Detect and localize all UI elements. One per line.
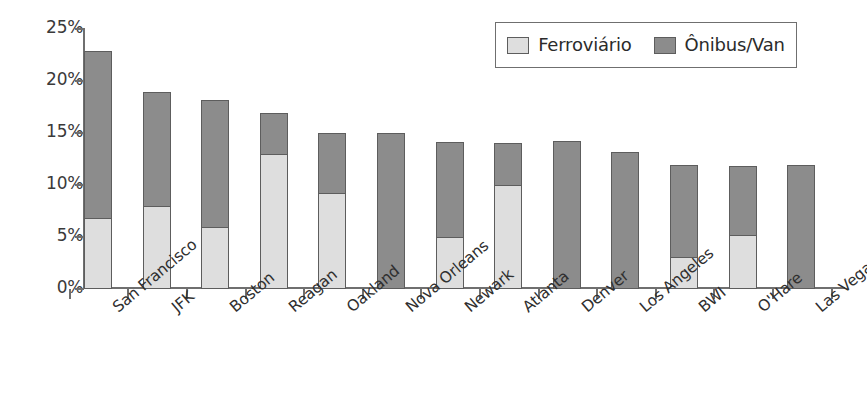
bar-segment-onibus-van[interactable] — [436, 142, 464, 238]
bar-segment-onibus-van[interactable] — [611, 152, 639, 289]
bar-group[interactable] — [84, 51, 112, 288]
bar-segment-onibus-van[interactable] — [84, 51, 112, 219]
bar-segment-onibus-van[interactable] — [260, 113, 288, 155]
bar-segment-ferroviario[interactable] — [201, 227, 229, 289]
bar-segment-onibus-van[interactable] — [143, 92, 171, 206]
bar-segment-ferroviario[interactable] — [84, 218, 112, 289]
bar-segment-onibus-van[interactable] — [670, 165, 698, 258]
bar-group[interactable] — [611, 152, 639, 288]
bar-group[interactable] — [553, 141, 581, 288]
bar-segment-onibus-van[interactable] — [494, 143, 522, 186]
bar-segment-onibus-van[interactable] — [318, 133, 346, 194]
legend-swatch-icon — [507, 37, 529, 54]
bar-group[interactable] — [260, 113, 288, 288]
bar-segment-ferroviario[interactable] — [729, 235, 757, 289]
bar-segment-onibus-van[interactable] — [201, 100, 229, 228]
stacked-bar-chart: 25%20%15%10%5%0% San FranciscoJFKBostonR… — [0, 0, 867, 419]
bar-group[interactable] — [494, 143, 522, 288]
legend-entry[interactable]: Ônibus/Van — [654, 36, 785, 54]
bar-segment-onibus-van[interactable] — [553, 141, 581, 289]
legend-swatch-icon — [654, 37, 676, 54]
bar-group[interactable] — [729, 166, 757, 288]
bar-segment-onibus-van[interactable] — [729, 166, 757, 236]
legend-label: Ferroviário — [538, 36, 631, 54]
bar-group[interactable] — [201, 100, 229, 288]
bar-segment-ferroviario[interactable] — [260, 154, 288, 289]
bar-group[interactable] — [318, 133, 346, 288]
legend-label: Ônibus/Van — [685, 36, 785, 54]
chart-legend: FerroviárioÔnibus/Van — [495, 22, 797, 68]
legend-entry[interactable]: Ferroviário — [507, 36, 631, 54]
